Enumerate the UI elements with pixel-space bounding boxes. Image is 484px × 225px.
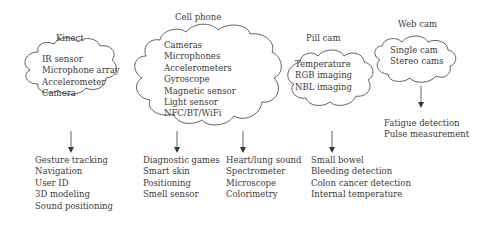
sensor-item: Microphone array [42,65,120,76]
application-item: User ID [35,178,113,189]
application-item: Smart skin [143,166,220,177]
sensor-item: NFC/BT/WiFi [164,108,236,119]
pill-cam-application-list: Small bowel Bleeding detection Colon can… [311,155,411,201]
application-item: Fatigue detection [384,118,469,129]
cell-phone-application-list-1: Diagnostic games Smart skin Positioning … [143,155,220,201]
application-item: Internal temperature [311,189,411,200]
sensor-item: Camera [42,88,120,99]
sensor-item: Light sensor [164,97,236,108]
sensor-item: Single cam [390,45,443,56]
application-item: Spectrometer [226,166,302,177]
sensor-item: Microphones [164,51,236,62]
application-item: 3D modeling [35,189,113,200]
sensor-item: NBL imaging [295,82,352,93]
application-item: Pulse measurement [384,129,469,140]
application-item: Bleeding detection [311,166,411,177]
cell-phone-title: Cell phone [175,12,221,22]
application-item: Microscope [226,178,302,189]
kinect-title: Kinect [56,33,84,43]
application-item: Small bowel [311,155,411,166]
application-item: Heart/lung sound [226,155,302,166]
application-item: Smell sensor [143,189,220,200]
sensor-item: Accelerometer [42,77,120,88]
application-item: Gesture tracking [35,155,113,166]
application-item: Sound positioning [35,201,113,212]
pill-cam-title: Pill cam [306,33,340,43]
pill-cam-sensor-list: Temperature RGB imaging NBL imaging [295,59,352,93]
sensor-item: Temperature [295,59,352,70]
sensor-item: Gyroscope [164,74,236,85]
application-item: Diagnostic games [143,155,220,166]
application-item: Colon cancer detection [311,178,411,189]
cell-phone-sensor-list: Cameras Microphones Accelerometers Gyros… [164,40,236,120]
sensor-item: Stereo cams [390,56,443,67]
sensor-item: Cameras [164,40,236,51]
sensor-item: Accelerometers [164,63,236,74]
web-cam-application-list: Fatigue detection Pulse measurement [384,118,469,141]
kinect-sensor-list: IR sensor Microphone array Accelerometer… [42,54,120,100]
web-cam-title: Web cam [398,19,437,29]
sensor-item: IR sensor [42,54,120,65]
application-item: Positioning [143,178,220,189]
diagram-canvas: Kinect IR sensor Microphone array Accele… [0,0,484,225]
web-cam-sensor-list: Single cam Stereo cams [390,45,443,68]
sensor-item: Magnetic sensor [164,86,236,97]
kinect-application-list: Gesture tracking Navigation User ID 3D m… [35,155,113,212]
cell-phone-application-list-2: Heart/lung sound Spectrometer Microscope… [226,155,302,201]
application-item: Colorimetry [226,189,302,200]
application-item: Navigation [35,166,113,177]
sensor-item: RGB imaging [295,70,352,81]
